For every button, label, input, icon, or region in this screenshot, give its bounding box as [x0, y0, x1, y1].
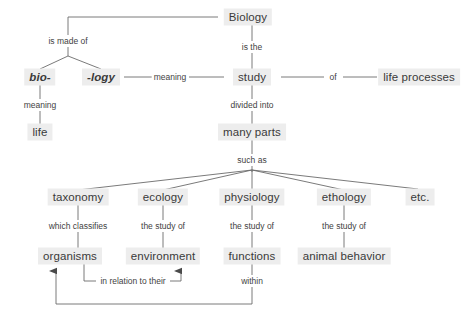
link-label-the-study-of-ethology: the study of	[320, 221, 368, 232]
link-label-which-classifies: which classifies	[47, 221, 110, 232]
edge-organisms-to-relation	[84, 264, 96, 281]
link-label-the-study-of-physiology: the study of	[228, 221, 276, 232]
node-environment[interactable]: environment	[126, 248, 200, 265]
link-label-within: within	[239, 276, 265, 287]
link-label-is-made-of: is made of	[46, 36, 89, 47]
node-life-processes[interactable]: life processes	[378, 69, 460, 86]
edge-relation-to-environment-arrow	[170, 271, 181, 281]
edge-such-as-to-ethology	[252, 170, 344, 190]
node-biology[interactable]: Biology	[224, 9, 272, 26]
node-animal-behavior[interactable]: animal behavior	[298, 248, 391, 265]
link-label-is-the: is the	[240, 42, 264, 53]
node-ecology[interactable]: ecology	[138, 189, 188, 206]
node-many-parts[interactable]: many parts	[218, 124, 286, 141]
node-organisms[interactable]: organisms	[38, 248, 102, 265]
link-label-divided-into: divided into	[228, 100, 275, 111]
node-logy[interactable]: -logy	[82, 69, 120, 86]
link-label-meaning-logy: meaning	[152, 72, 189, 83]
edge-is-made-of-to-logy	[68, 56, 101, 69]
node-physiology[interactable]: physiology	[219, 189, 284, 206]
concept-map: Biology bio- -logy study life processes …	[0, 0, 471, 323]
node-etc[interactable]: etc.	[406, 189, 435, 206]
link-label-meaning-bio: meaning	[22, 100, 59, 111]
node-functions[interactable]: functions	[224, 248, 281, 265]
node-ethology[interactable]: ethology	[317, 189, 371, 206]
node-taxonomy[interactable]: taxonomy	[48, 189, 109, 206]
edge-biology-to-is-made-of	[68, 17, 218, 35]
node-life[interactable]: life	[27, 124, 52, 141]
node-study[interactable]: study	[233, 69, 271, 86]
edge-such-as-to-taxonomy	[78, 170, 252, 190]
link-label-in-relation-to-their: in relation to their	[98, 276, 167, 287]
node-bio[interactable]: bio-	[24, 69, 55, 86]
edge-such-as-to-ecology	[163, 170, 252, 190]
link-label-the-study-of-ecology: the study of	[139, 221, 187, 232]
link-label-such-as: such as	[235, 155, 268, 166]
edge-is-made-of-to-bio	[40, 56, 68, 69]
link-label-of: of	[327, 72, 338, 83]
edge-such-as-to-etc	[252, 170, 418, 189]
